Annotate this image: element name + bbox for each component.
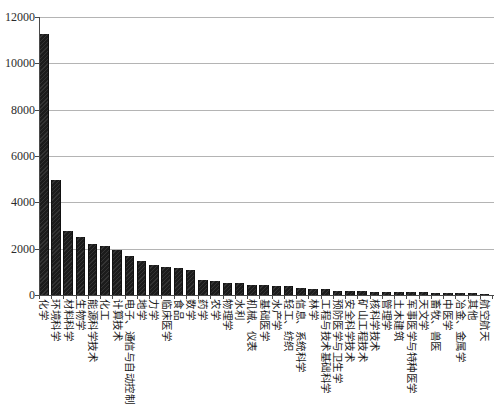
x-category-label: 力学 (148, 299, 159, 320)
gridline (39, 202, 494, 203)
bar (88, 244, 98, 295)
gridline (39, 156, 494, 157)
bar (51, 180, 61, 295)
x-category-label: 其他 (467, 299, 478, 320)
x-category-label: 信息、系统科学 (295, 299, 306, 373)
x-axis-tick (492, 296, 493, 299)
bar (210, 281, 220, 295)
x-category-label: 管理学 (381, 299, 392, 331)
x-category-label: 冶金、金属学 (455, 299, 466, 362)
bar (149, 265, 159, 295)
y-tick-label: 0 (0, 288, 35, 302)
y-tick-label: 2000 (0, 242, 35, 256)
x-category-label: 计算技术 (112, 299, 123, 341)
x-category-label: 预防医学与卫生学 (332, 299, 343, 383)
x-category-label: 能源科学技术 (87, 299, 98, 362)
x-category-label: 材料科学 (63, 299, 74, 341)
x-category-label: 安全科学技术 (344, 299, 355, 362)
x-category-label: 林学 (308, 299, 319, 320)
bar (186, 270, 196, 295)
bar (76, 237, 86, 295)
x-category-label: 数学 (185, 299, 196, 320)
x-category-label: 水利 (234, 299, 245, 320)
bar (272, 286, 282, 295)
x-category-label: 药学 (197, 299, 208, 320)
x-category-label: 电子、通信与自动控制 (124, 299, 135, 404)
x-category-label: 畜牧、兽医 (430, 299, 441, 352)
gridline (39, 110, 494, 111)
x-category-label: 核科学技术 (369, 299, 380, 352)
bar (259, 285, 269, 295)
y-tick-label: 12000 (0, 10, 35, 24)
x-category-label: 环境科学 (50, 299, 61, 341)
x-category-label: 临床医学 (161, 299, 172, 341)
x-category-label: 中医学 (442, 299, 453, 331)
y-tick-label: 8000 (0, 103, 35, 117)
bar (112, 250, 122, 295)
bar (137, 261, 147, 295)
x-category-label: 军事医学与特种医学 (406, 299, 417, 394)
bar (296, 288, 306, 295)
bar (284, 286, 294, 295)
x-category-label: 地学 (136, 299, 147, 320)
bar (174, 268, 184, 295)
x-category-label: 航空航天 (479, 299, 490, 341)
x-category-label: 食品 (173, 299, 184, 320)
x-category-label: 机械、仪表 (246, 299, 257, 352)
x-category-label: 化学 (38, 299, 49, 320)
x-category-label: 化工 (99, 299, 110, 320)
x-category-label: 生物学 (75, 299, 86, 331)
x-category-label: 土木建筑 (393, 299, 404, 341)
gridline (39, 17, 494, 18)
x-category-label: 物理学 (222, 299, 233, 331)
x-category-label: 水产学 (271, 299, 282, 331)
bar (39, 34, 49, 295)
x-axis-line (39, 295, 494, 296)
gridline (39, 63, 494, 64)
bar (247, 285, 257, 295)
bar (223, 283, 233, 295)
y-tick-label: 4000 (0, 195, 35, 209)
x-category-label: 基础医学 (259, 299, 270, 341)
x-category-label: 天文学 (418, 299, 429, 331)
bar (235, 283, 245, 295)
y-tick-label: 10000 (0, 56, 35, 70)
bar (198, 280, 208, 295)
x-category-label: 矿山工程技术 (357, 299, 368, 362)
y-axis-line (39, 17, 40, 296)
y-tick-label: 6000 (0, 149, 35, 163)
bar (308, 289, 318, 295)
x-category-label: 农学 (210, 299, 221, 320)
x-category-label: 工程与技术基础科学 (320, 299, 331, 394)
bar (161, 267, 171, 295)
bar (125, 256, 135, 295)
x-category-label: 轻工、纺织 (283, 299, 294, 352)
bar (100, 246, 110, 295)
bar-chart-figure: 020004000600080001000012000化学环境科学材料科学生物学… (0, 0, 499, 414)
bar (63, 231, 73, 295)
